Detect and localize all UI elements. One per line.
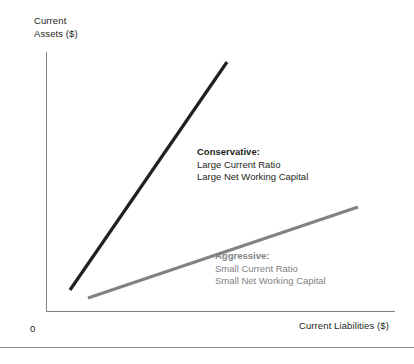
conservative-annotation-title: Conservative: <box>197 146 308 159</box>
y-axis-label-line-1: Current <box>34 15 66 26</box>
aggressive-annotation: Aggressive: Small Current Ratio Small Ne… <box>215 250 326 288</box>
origin-label: 0 <box>30 323 35 336</box>
aggressive-annotation-line-2: Small Net Working Capital <box>215 275 326 288</box>
y-axis-label: Current Assets ($) <box>34 14 78 40</box>
x-axis-label: Current Liabilities ($) <box>299 320 389 333</box>
conservative-annotation-line-2: Large Net Working Capital <box>197 171 308 184</box>
aggressive-annotation-title: Aggressive: <box>215 250 326 263</box>
chart-figure: Current Assets ($) Current Liabilities (… <box>0 0 414 364</box>
conservative-annotation: Conservative: Large Current Ratio Large … <box>197 146 308 184</box>
aggressive-annotation-line-1: Small Current Ratio <box>215 263 326 276</box>
footer-divider <box>0 347 414 348</box>
conservative-annotation-line-1: Large Current Ratio <box>197 159 308 172</box>
y-axis-label-line-2: Assets ($) <box>34 28 78 39</box>
